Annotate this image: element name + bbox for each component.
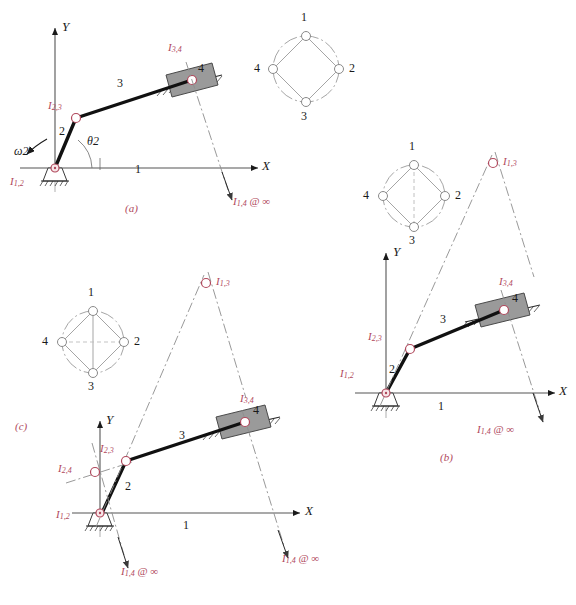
panel-b-ic-I13-label: I1,3: [503, 156, 517, 168]
panel-a-circle-node-1-label: 1: [301, 11, 307, 23]
panel-b-x-axis-label: X: [559, 384, 567, 397]
panel-c-circle-node-4-label: 4: [42, 335, 48, 347]
panel-b-ic-I14-label: I1,4 @ ∞: [477, 424, 514, 436]
panel-c: [58, 272, 301, 568]
panel-b-ic-I13-joint: [489, 159, 498, 168]
figure-canvas: Y X I1,2 I2,3 I3,4 I1,4 @ ∞ 1 2 3 4 θ2 ω…: [0, 0, 576, 605]
panel-c-caption: (c): [15, 421, 27, 432]
panel-a-ic-I14-sub: 1,4: [237, 199, 247, 208]
panel-b-ic-I13-sub: 1,3: [507, 159, 517, 168]
panel-c-ic-I24-sub: 2,4: [62, 466, 72, 475]
panel-c-ic-I14-note-right: @ ∞: [298, 552, 319, 564]
panel-a-link-1-number: 1: [135, 163, 141, 175]
panel-c-edge-3-4: [62, 342, 93, 373]
panel-c-ic-I14-line-right-lower: [242, 410, 284, 546]
panel-c-node-3: [89, 369, 98, 378]
panel-a-circle-node-3-label: 3: [301, 110, 307, 122]
panel-a: [20, 28, 344, 200]
panel-a-link-3-number: 3: [117, 77, 123, 89]
panel-c-link-4-number: 4: [253, 404, 259, 416]
panel-a-edge-3-4: [273, 69, 306, 102]
panel-b-link-1-number: 1: [438, 400, 444, 412]
panel-c-ic-I14-label-right: I1,4 @ ∞: [282, 553, 319, 565]
panel-a-edge-4-1: [273, 36, 306, 69]
panel-c-ic-I13-line-from-link2: [96, 275, 204, 527]
panel-b-ic-I14-line: [495, 152, 534, 277]
panel-a-caption: (a): [125, 203, 138, 214]
panel-c-link-3: [126, 422, 245, 461]
panel-a-ground-hatching: [40, 181, 68, 186]
panel-c-ic-I14-sub-right: 1,4: [286, 556, 296, 565]
panel-b-link-2-number: 2: [389, 363, 395, 375]
panel-c-ic-I12-center: [99, 512, 101, 514]
panel-b-link-3: [410, 310, 504, 349]
panel-c-ic-I14-label-left: I1,4 @ ∞: [121, 566, 158, 578]
panel-b-ic-I34-label: I3,4: [499, 276, 513, 288]
panel-b-node-2: [441, 192, 450, 201]
panel-a-circle-node-4-label: 4: [254, 62, 260, 74]
panel-b-link-4-number: 4: [512, 292, 518, 304]
panel-a-link-4-number: 4: [198, 62, 204, 74]
mechanism-svg: [0, 0, 576, 605]
panel-a-link-2-number: 2: [59, 125, 65, 137]
panel-c-ic-I14-note-left: @ ∞: [137, 565, 158, 577]
panel-c-x-axis-label: X: [305, 504, 313, 517]
panel-b-node-3: [410, 223, 419, 232]
panel-c-link-1-number: 1: [183, 519, 189, 531]
panel-a-omega-label: ω2: [14, 145, 28, 157]
panel-b-ic-I12-center: [385, 392, 387, 394]
panel-a-ic-I12-label: I1,2: [10, 176, 24, 188]
panel-a-ic-I23-joint: [72, 114, 81, 123]
panel-b-ic-I14-arrow: [533, 393, 543, 422]
panel-a-ic-I23-sub: 2,3: [52, 103, 62, 112]
panel-b-ic-I14-sub: 1,4: [481, 427, 491, 436]
panel-b-edge-3-4: [383, 196, 414, 227]
panel-c-ic-I13-joint: [202, 279, 211, 288]
panel-c-node-1: [89, 307, 98, 316]
panel-a-edge-2-3: [306, 69, 339, 102]
panel-a-y-axis-label: Y: [62, 20, 69, 33]
panel-c-link-2-number: 2: [125, 480, 131, 492]
panel-b-circle-node-2-label: 2: [455, 189, 461, 201]
panel-b-y-axis-label: Y: [393, 245, 400, 258]
panel-b-node-1: [410, 161, 419, 170]
panel-c-ic-I14-arrow-left: [118, 537, 128, 568]
panel-b-circle-node-3-label: 3: [409, 234, 415, 246]
panel-b-caption: (b): [440, 452, 453, 463]
panel-c-circle-diagram: [58, 307, 129, 378]
panel-a-link-3: [76, 80, 192, 118]
panel-c-ic-I13-sub: 1,3: [220, 279, 230, 288]
panel-a-ic-I14-label: I1,4 @ ∞: [233, 196, 270, 208]
panel-c-ic-I14-sub-left: 1,4: [125, 569, 135, 578]
panel-a-node-3: [302, 98, 311, 107]
panel-c-ic-I14-line-right: [208, 272, 246, 398]
panel-a-omega-arrow: [27, 139, 47, 154]
panel-c-ic-I34-label: I3,4: [240, 393, 254, 405]
panel-b-ic-I23-label: I2,3: [368, 331, 382, 343]
panel-c-ground-hatching: [85, 526, 113, 531]
panel-c-ic-I12-sub: 1,2: [60, 512, 70, 521]
panel-c-ic-I34-joint: [241, 418, 250, 427]
panel-c-ic-I24-joint: [91, 468, 100, 477]
panel-b-ic-I23-sub: 2,3: [372, 334, 382, 343]
panel-a-ic-I34-sub: 3,4: [172, 45, 182, 54]
panel-c-y-axis-label: Y: [106, 413, 113, 426]
panel-a-omega-sub: 2: [22, 144, 28, 158]
panel-b-circle-diagram: [379, 161, 450, 232]
panel-c-node-2: [120, 338, 129, 347]
panel-c-ic-I24-label: I2,4: [58, 463, 72, 475]
panel-a-ic-I12-center: [54, 167, 56, 169]
panel-b-ic-I23-joint: [406, 345, 415, 354]
panel-a-node-1: [302, 32, 311, 41]
panel-b-ic-I12-label: I1,2: [340, 368, 354, 380]
panel-a-ic-I14-arrow: [222, 172, 232, 200]
panel-b-ic-I13-line-from-link2: [380, 155, 492, 406]
panel-a-edge-1-2: [306, 36, 339, 69]
panel-c-ic-I12-label: I1,2: [56, 509, 70, 521]
panel-c-circle-node-2-label: 2: [134, 335, 140, 347]
panel-b-node-4: [379, 192, 388, 201]
panel-c-node-4: [58, 338, 67, 347]
panel-c-link-3-number: 3: [179, 429, 185, 441]
panel-b-ic-I12-sub: 1,2: [344, 371, 354, 380]
panel-b-ic-I34-sub: 3,4: [503, 279, 513, 288]
